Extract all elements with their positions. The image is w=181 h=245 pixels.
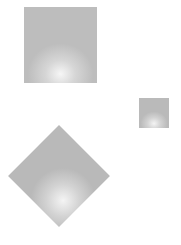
gray-diamond <box>8 125 110 227</box>
large-gray-square <box>24 7 97 83</box>
small-gray-square <box>139 98 169 128</box>
